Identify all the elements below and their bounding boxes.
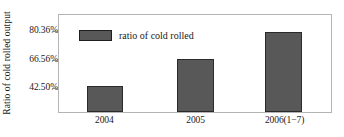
legend-label-ratio-of-cold-rolled: ratio of cold rolled [119,30,194,41]
legend-swatch-ratio-of-cold-rolled [79,30,112,41]
legend: ratio of cold rolled [79,30,194,41]
y-axis-ticks: 80.36% 66.56% 42.50% [10,0,58,137]
bar-2005 [177,59,214,112]
bar-2004 [87,86,124,112]
x-axis-ticks: 2004 2005 2006(1−7) [58,115,332,135]
x-tick-label-2006: 2006(1−7) [238,115,331,125]
plot-area: ratio of cold rolled [58,14,332,113]
x-tick-label-2005: 2005 [149,115,242,125]
x-tick-label-2004: 2004 [58,115,151,125]
bar-2006 [265,32,302,112]
bar-chart: Ratio of cold rolled output 80.36% 66.56… [0,0,344,137]
